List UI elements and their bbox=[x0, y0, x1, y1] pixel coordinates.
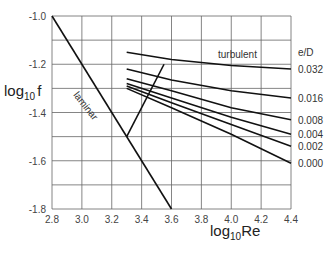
legend-labels: 0.0320.0160.0080.0040.0020.000 bbox=[298, 64, 323, 169]
y-tick-label: -1.2 bbox=[29, 59, 47, 70]
legend-label: 0.002 bbox=[298, 141, 323, 152]
legend-label: 0.004 bbox=[298, 129, 323, 140]
legend-title: e/D bbox=[298, 47, 314, 58]
curve-0-016 bbox=[127, 69, 291, 98]
y-tick-labels: -1.0-1.2-1.4-1.6-1.8 bbox=[29, 11, 47, 215]
x-tick-label: 3.6 bbox=[165, 214, 179, 225]
laminar-annotation: laminar bbox=[71, 89, 100, 122]
x-tick-label: 3.0 bbox=[75, 214, 89, 225]
x-tick-labels: 2.83.03.23.43.63.84.04.24.4 bbox=[45, 214, 298, 225]
curve-0-004 bbox=[127, 84, 291, 135]
x-tick-label: 2.8 bbox=[45, 214, 59, 225]
legend-label: 0.032 bbox=[298, 64, 323, 75]
friction-factor-chart: 2.83.03.23.43.63.84.04.24.4 -1.0-1.2-1.4… bbox=[0, 0, 331, 256]
legend-label: 0.000 bbox=[298, 158, 323, 169]
x-tick-label: 3.2 bbox=[105, 214, 119, 225]
legend-label: 0.008 bbox=[298, 115, 323, 126]
x-tick-label: 3.4 bbox=[135, 214, 149, 225]
curve-transition bbox=[127, 64, 164, 136]
y-tick-label: -1.4 bbox=[29, 108, 47, 119]
legend-label: 0.016 bbox=[298, 93, 323, 104]
x-axis-title: log10Re bbox=[210, 222, 260, 242]
y-axis-title: log10f bbox=[4, 82, 42, 102]
curve-0-000 bbox=[127, 88, 291, 163]
turbulent-annotation: turbulent bbox=[218, 49, 257, 60]
y-tick-label: -1.0 bbox=[29, 11, 47, 22]
x-tick-label: 3.8 bbox=[194, 214, 208, 225]
y-tick-label: -1.8 bbox=[29, 204, 47, 215]
curve-0-032 bbox=[127, 52, 291, 69]
x-tick-label: 4.4 bbox=[284, 214, 298, 225]
y-tick-label: -1.6 bbox=[29, 156, 47, 167]
